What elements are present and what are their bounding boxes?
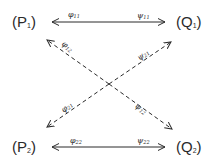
label-phi11-index: 11 xyxy=(74,13,80,19)
node-q2-index: 2 xyxy=(193,147,197,154)
label-phi11: φ11 xyxy=(68,11,80,19)
label-phi22-index: 22 xyxy=(76,139,82,145)
node-q2-symbol: Q xyxy=(181,138,193,155)
label-psi11-index: 11 xyxy=(143,14,149,20)
node-q1-index: 1 xyxy=(193,22,197,29)
morphism-diagram: (P1) (Q1) (P2) (Q2) φ11 ψ11 φ12 ψ21 φ21 … xyxy=(0,0,222,163)
node-p1-index: 1 xyxy=(27,22,31,29)
arrow-phi12 xyxy=(47,40,109,84)
node-q1: (Q1) xyxy=(176,14,202,29)
label-phi22: φ22 xyxy=(70,137,82,145)
arrow-phi21 xyxy=(47,84,109,127)
node-p1: (P1) xyxy=(12,14,36,29)
node-p2-index: 2 xyxy=(27,147,31,154)
node-p2: (P2) xyxy=(12,139,36,154)
label-psi11: ψ11 xyxy=(137,12,150,20)
node-q2: (Q2) xyxy=(176,139,202,154)
label-psi22: ψ22 xyxy=(137,137,150,145)
node-p1-symbol: P xyxy=(17,13,27,30)
node-q1-symbol: Q xyxy=(181,13,193,30)
label-psi22-index: 22 xyxy=(143,139,149,145)
arrow-psi21 xyxy=(109,42,171,84)
node-p2-symbol: P xyxy=(17,138,27,155)
